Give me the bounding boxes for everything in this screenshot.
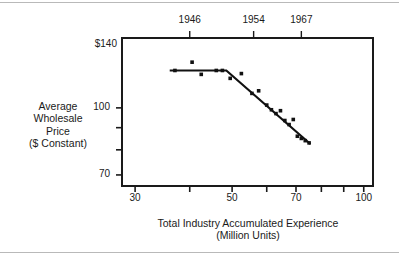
data-point xyxy=(307,141,311,145)
figure-container: Average Wholesale Price ($ Constant) Tot… xyxy=(0,0,399,260)
data-point xyxy=(270,108,274,112)
x-tick-label: 70 xyxy=(271,192,321,204)
x-axis-title: Total Industry Accumulated Experience (M… xyxy=(98,217,398,242)
data-point xyxy=(173,69,177,73)
data-point xyxy=(214,69,218,73)
y-tick-label: 100 xyxy=(55,101,110,113)
data-point xyxy=(287,123,291,127)
y-tick-label: $140 xyxy=(55,38,117,50)
data-point xyxy=(250,92,254,96)
x-tick-label: 30 xyxy=(110,192,160,204)
data-point xyxy=(228,77,232,81)
data-point xyxy=(291,118,295,122)
data-point xyxy=(300,137,304,141)
y-tick-label: 70 xyxy=(55,168,110,180)
data-point xyxy=(279,109,283,113)
data-point xyxy=(283,119,287,123)
x-tick-label: 50 xyxy=(207,192,257,204)
data-point xyxy=(274,112,278,116)
data-point xyxy=(265,103,269,107)
data-point xyxy=(199,73,203,77)
data-point xyxy=(303,139,307,143)
data-point xyxy=(240,72,244,76)
year-tick-label: 1967 xyxy=(276,14,326,26)
data-point xyxy=(190,60,194,64)
plot-frame xyxy=(122,38,373,186)
year-tick-label: 1954 xyxy=(229,14,279,26)
year-tick-label: 1946 xyxy=(165,14,215,26)
data-point xyxy=(257,89,261,93)
x-tick-label: 100 xyxy=(339,192,389,204)
top-axis-year-ticks xyxy=(190,31,302,38)
data-point xyxy=(221,69,225,73)
data-point xyxy=(296,134,300,138)
